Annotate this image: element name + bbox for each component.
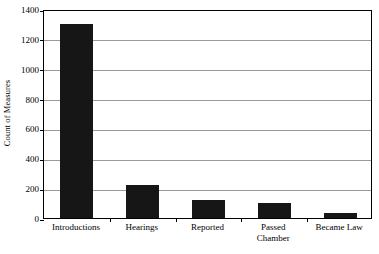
x-axis-tick-labels: IntroductionsHearingsReportedPassed Cham… [43,222,372,254]
y-axis-tick-label: 1200 [21,35,39,44]
y-axis-tick-label: 1400 [21,6,39,15]
y-axis-tick-mark [40,40,44,41]
y-axis-tick-mark [40,190,44,191]
bar [258,203,291,218]
x-axis-tick-label: Reported [175,222,241,233]
y-axis-tick-mark [40,220,44,221]
y-axis-title-label: Count of Measures [2,79,12,145]
y-axis-tick-mark [40,100,44,101]
y-axis-tick-label: 800 [26,95,40,104]
y-axis-tick-label: 0 [35,215,40,224]
y-axis-tick-label: 600 [26,125,40,134]
y-axis-tick-mark [40,70,44,71]
plot-area [43,10,372,219]
y-axis-tick-label: 400 [26,155,40,164]
bar [324,213,357,218]
y-axis-tick-mark [40,11,44,12]
y-axis-tick-mark [40,130,44,131]
x-axis-tick-label: Hearings [109,222,175,233]
x-axis-tick-label: Introductions [43,222,109,233]
x-axis-tick-label: Became Law [306,222,372,233]
bar [126,185,159,218]
bar-chart: Count of Measures 0200400600800100012001… [0,0,379,254]
bar [60,24,93,218]
y-axis-tick-mark [40,160,44,161]
y-axis-tick-labels: 0200400600800100012001400 [14,0,41,254]
y-axis-tick-label: 200 [26,185,40,194]
y-axis-tick-label: 1000 [21,65,39,74]
bar [192,200,225,218]
x-axis-tick-label: Passed Chamber [240,222,306,244]
y-axis-title: Count of Measures [0,0,14,225]
